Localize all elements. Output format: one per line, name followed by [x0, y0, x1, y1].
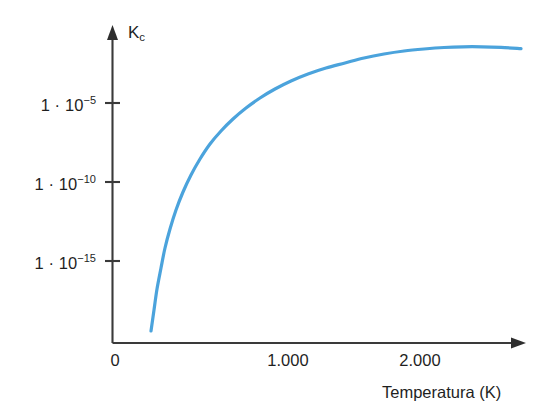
x-tick-label-1000: 1.000: [248, 352, 328, 369]
data-curve-kc: [151, 47, 521, 331]
y-axis-title: Kc: [128, 24, 145, 41]
y-axis-arrowhead: [107, 25, 118, 40]
x-tick-label-2000: 2.000: [380, 352, 460, 369]
y-tick-label-1e-15: 1 · 10−15: [22, 253, 96, 271]
y-tick-label-1e-10: 1 · 10−10: [22, 174, 96, 192]
x-tick-label-0: 0: [100, 352, 130, 369]
y-tick-label-1e-5: 1 · 10−5: [28, 95, 96, 113]
x-axis-arrowhead: [511, 338, 526, 349]
x-axis-title: Temperatura (K): [382, 384, 501, 401]
chart-figure: 1 · 10−5 1 · 10−10 1 · 10−15 Kc 0 1.000 …: [0, 0, 556, 415]
